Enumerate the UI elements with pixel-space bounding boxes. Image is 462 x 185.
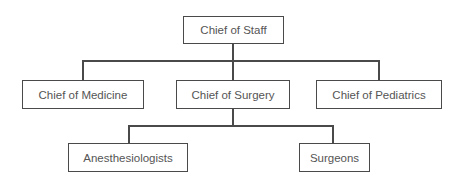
- connector-surgery-up: [232, 60, 234, 80]
- node-label: Chief of Staff: [200, 24, 266, 36]
- node-chief-of-medicine: Chief of Medicine: [22, 80, 144, 109]
- node-label: Chief of Pediatrics: [332, 89, 425, 101]
- connector-staff-down: [232, 43, 234, 61]
- org-chart: Chief of Staff Chief of Medicine Chief o…: [0, 0, 462, 185]
- node-surgeons: Surgeons: [299, 143, 370, 172]
- connector-pediatrics-up: [378, 60, 380, 80]
- connector-surgeons-up: [332, 125, 334, 143]
- connector-surgery-down: [232, 108, 234, 126]
- node-chief-of-surgery: Chief of Surgery: [176, 80, 290, 109]
- connector-medicine-up: [82, 60, 84, 80]
- node-chief-of-pediatrics: Chief of Pediatrics: [316, 80, 442, 109]
- connector-level2-horizontal: [128, 125, 333, 127]
- node-label: Chief of Medicine: [39, 89, 128, 101]
- node-anesthesiologists: Anesthesiologists: [68, 143, 188, 172]
- node-label: Chief of Surgery: [191, 89, 274, 101]
- node-label: Surgeons: [310, 152, 359, 164]
- connector-anesthesiologists-up: [128, 125, 130, 143]
- node-label: Anesthesiologists: [83, 152, 173, 164]
- connector-level1-horizontal: [82, 60, 378, 62]
- node-chief-of-staff: Chief of Staff: [183, 16, 284, 44]
